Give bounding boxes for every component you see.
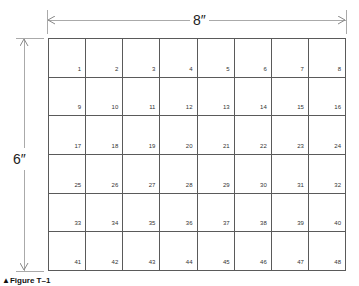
grid-cell: 5 [198,39,235,78]
grid-cell: 47 [272,232,309,271]
grid-cell: 15 [272,78,309,117]
grid-cell: 40 [309,194,346,233]
figure-caption: ▲Figure T–1 [2,276,50,285]
cell-number: 11 [149,104,155,110]
arrow-left-icon [48,16,56,25]
grid-cell: 19 [123,116,160,155]
cell-number: 48 [334,259,341,265]
cell-number: 18 [112,143,119,149]
cell-number: 16 [334,104,341,110]
cell-number: 21 [223,143,230,149]
cell-number: 31 [297,182,304,188]
grid-cell: 35 [123,194,160,233]
cell-number: 46 [260,259,267,265]
cell-number: 24 [334,143,341,149]
grid-cell: 31 [272,155,309,194]
cell-number: 4 [189,66,192,72]
grid-cell: 41 [49,232,86,271]
cell-number: 5 [226,66,229,72]
grid-cell: 26 [86,155,123,194]
grid-cell: 43 [123,232,160,271]
width-label: 8″ [190,12,209,28]
grid-cell: 42 [86,232,123,271]
grid-cell: 37 [198,194,235,233]
grid-cell: 17 [49,116,86,155]
grid-cell: 14 [235,78,272,117]
cell-number: 14 [260,104,267,110]
grid-cell: 29 [198,155,235,194]
width-extension-right [346,10,347,34]
grid-cell: 22 [235,116,272,155]
cell-number: 19 [149,143,156,149]
grid-cell: 39 [272,194,309,233]
grid-cell: 28 [160,155,197,194]
cell-number: 15 [297,104,304,110]
cell-number: 7 [301,66,304,72]
cell-number: 9 [78,104,81,110]
cell-number: 28 [186,182,193,188]
height-extension-bottom [16,271,44,272]
grid-cell: 18 [86,116,123,155]
cell-number: 44 [186,259,193,265]
grid-cell: 34 [86,194,123,233]
grid-cell: 32 [309,155,346,194]
grid-cell: 44 [160,232,197,271]
grid-cell: 11 [123,78,160,117]
grid-cell: 7 [272,39,309,78]
cell-number: 41 [74,259,81,265]
cell-number: 42 [112,259,119,265]
height-label: 6″ [12,148,27,170]
grid-cell: 33 [49,194,86,233]
arrow-right-icon [338,16,346,25]
grid-cell: 16 [309,78,346,117]
cell-number: 12 [186,104,193,110]
cell-number: 38 [260,220,267,226]
cell-number: 13 [223,104,230,110]
cell-number: 36 [186,220,193,226]
cell-number: 29 [223,182,230,188]
cell-number: 22 [260,143,267,149]
grid-cell: 13 [198,78,235,117]
cell-number: 43 [149,259,156,265]
grid-cell: 24 [309,116,346,155]
cell-number: 2 [115,66,118,72]
grid-cell: 3 [123,39,160,78]
cell-number: 3 [152,66,155,72]
cell-number: 39 [297,220,304,226]
cell-number: 17 [74,143,81,149]
grid-cell: 48 [309,232,346,271]
grid-cell: 6 [235,39,272,78]
cell-number: 26 [112,182,119,188]
arrow-down-icon [20,263,29,271]
grid-cell: 9 [49,78,86,117]
cell-number: 25 [74,182,81,188]
cell-number: 45 [223,259,230,265]
grid-cell: 36 [160,194,197,233]
cell-number: 47 [297,259,304,265]
cell-number: 35 [149,220,156,226]
grid-cell: 23 [272,116,309,155]
grid-cell: 20 [160,116,197,155]
cell-number: 37 [223,220,230,226]
cell-number: 30 [260,182,267,188]
cell-number: 32 [334,182,341,188]
grid-cell: 21 [198,116,235,155]
cell-number: 23 [297,143,304,149]
grid-cell: 10 [86,78,123,117]
grid-cell: 38 [235,194,272,233]
grid-cell: 2 [86,39,123,78]
grid-cell: 1 [49,39,86,78]
grid-cell: 45 [198,232,235,271]
grid-cell: 27 [123,155,160,194]
cell-number: 40 [334,220,341,226]
grid-cell: 46 [235,232,272,271]
cell-number: 20 [186,143,193,149]
cell-number: 8 [338,66,341,72]
cell-number: 10 [112,104,119,110]
cell-number: 6 [263,66,266,72]
grid-cell: 8 [309,39,346,78]
grid-cell: 4 [160,39,197,78]
cell-number: 27 [149,182,156,188]
arrow-up-icon [20,39,29,47]
cell-number: 34 [112,220,119,226]
